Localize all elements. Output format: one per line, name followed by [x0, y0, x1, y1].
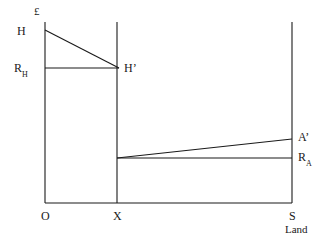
y-axis-currency-label: £ [34, 6, 40, 17]
housing-end-label: H’ [124, 62, 137, 74]
housing-bid-rent-curve [45, 30, 119, 68]
housing-rent-label: RH [14, 62, 28, 77]
housing-intercept-label: H [17, 25, 26, 37]
housing-rent-subscript: H [22, 70, 28, 79]
agriculture-rent-label: RA [298, 151, 312, 166]
agriculture-rent-subscript: A [306, 159, 312, 168]
agriculture-rent-base: R [298, 150, 306, 164]
x-axis-name-label: Land [285, 224, 308, 235]
bid-rent-diagram [0, 0, 323, 239]
figure-canvas: £ H RH H’ A’ RA O X S Land [0, 0, 323, 239]
agriculture-end-label: A’ [298, 131, 309, 143]
agriculture-bid-rent-curve [117, 139, 292, 158]
x-tick-label-o: O [41, 210, 50, 222]
x-tick-label-x: X [113, 210, 122, 222]
x-tick-label-s: S [289, 210, 296, 222]
housing-rent-base: R [14, 61, 22, 75]
